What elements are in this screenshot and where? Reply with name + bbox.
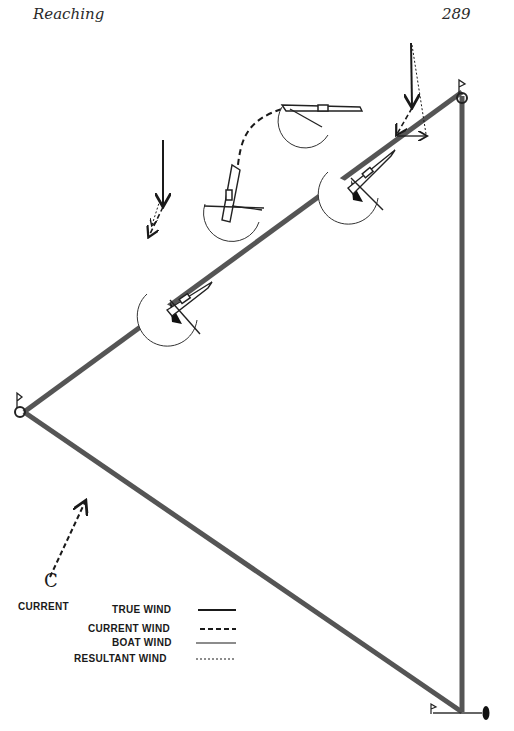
mark-flag-icon — [17, 393, 22, 408]
legend-current-wind-label: CURRENT WIND — [88, 623, 170, 634]
course-leg-run — [24, 412, 462, 712]
legend-line-samples — [196, 610, 236, 659]
current-arrow — [50, 502, 85, 577]
current-label: CURRENT — [18, 601, 69, 612]
reaching-course-diagram — [0, 0, 514, 731]
committee-boat-icon — [483, 706, 490, 720]
current-symbol: C — [44, 570, 58, 591]
legend-boat-wind-label: BOAT WIND — [112, 637, 172, 648]
legend-resultant-wind-label: RESULTANT WIND — [74, 653, 167, 664]
legend-true-wind-label: TRUE WIND — [112, 604, 171, 615]
wind-vector-diagram-left — [149, 140, 163, 236]
boat-beating — [204, 165, 264, 241]
boat-reaching-2 — [318, 150, 395, 224]
boat-top — [278, 105, 362, 148]
boat-reaching-1 — [137, 282, 212, 346]
course-lines — [24, 92, 462, 712]
